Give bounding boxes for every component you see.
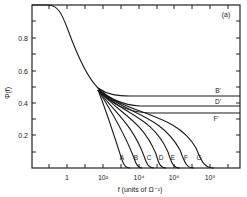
curve-c (98, 90, 154, 168)
curve-label-f-prime: F' (213, 115, 218, 122)
curve-label-d-prime: D' (215, 98, 221, 105)
curve-label-g: G (196, 154, 201, 161)
x-tick-label: 1 (65, 174, 69, 181)
y-tick-label: 0.8 (18, 35, 28, 42)
curve-label-f: F (184, 154, 188, 161)
y-axis-label: Φ(f) (4, 87, 12, 99)
curve-label-c: C (147, 154, 152, 161)
y-tick-label: 0.6 (18, 68, 28, 75)
plot-frame (32, 5, 240, 168)
curve-b-prime (32, 5, 240, 96)
x-tick-label: 10² (98, 174, 109, 181)
y-tick-label: 0.4 (18, 100, 28, 107)
x-tick-label: 10⁴ (134, 174, 145, 181)
x-tick-label: 10⁸ (205, 174, 216, 181)
curve-label-a: A (120, 154, 125, 161)
curve-label-b: B (134, 154, 138, 161)
relaxation-function-chart: 0.8 0.6 0.4 0.2 Φ(f) 1 10² 10⁴ 10⁶ 10⁸ f… (0, 0, 247, 197)
x-tick-label: 10⁶ (169, 174, 180, 181)
y-tick-label: 0.2 (18, 132, 28, 139)
panel-label: (a) (222, 11, 231, 19)
curves (32, 5, 240, 168)
curve-d (98, 90, 166, 168)
y-ticks (32, 21, 240, 152)
curve-label-b-prime: B' (215, 87, 221, 94)
curve-label-d: D (159, 154, 164, 161)
curve-label-e: E (171, 154, 176, 161)
curve-a (98, 90, 130, 168)
x-axis-label: f (units of Ω⁻¹) (118, 186, 163, 194)
